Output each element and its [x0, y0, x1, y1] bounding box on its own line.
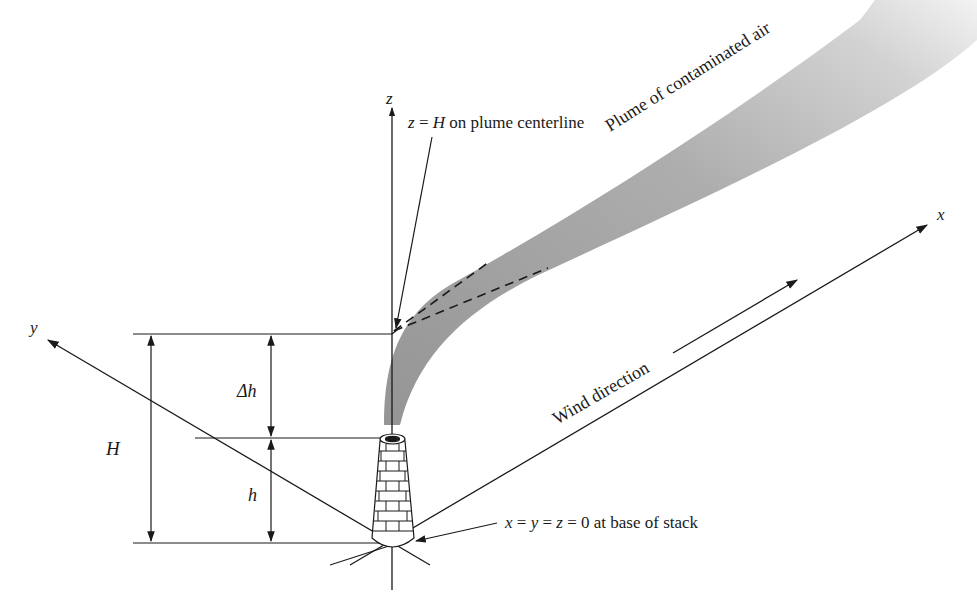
centerline-label: z = H on plume centerline: [407, 113, 584, 132]
reference-lines: [133, 330, 397, 543]
x-axis-label: x: [936, 205, 945, 224]
plume: [384, 0, 977, 425]
plume-rise-label: Δh: [236, 381, 257, 401]
total-height-label: H: [105, 438, 121, 459]
origin-label: x = y = z = 0 at base of stack: [504, 513, 699, 532]
z-axis-label: z: [385, 89, 393, 108]
smoke-stack: [372, 434, 414, 547]
y-axis-label: y: [28, 318, 38, 337]
centerline-leader: [396, 137, 432, 328]
stack-height-label: h: [248, 485, 257, 505]
plume-diagram: z y x z = H on plume centerline Plume of…: [0, 0, 977, 598]
origin-leader: [416, 523, 497, 541]
wind-direction-arrow: [673, 280, 797, 353]
